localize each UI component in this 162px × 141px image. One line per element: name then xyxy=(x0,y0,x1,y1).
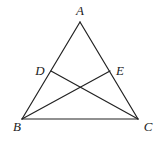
segment-be xyxy=(22,71,110,119)
triangle-diagram: ABCDE xyxy=(0,0,162,141)
point-label-e: E xyxy=(115,63,124,78)
point-labels: ABCDE xyxy=(13,3,153,134)
segment-ac xyxy=(80,22,138,119)
point-label-b: B xyxy=(13,119,21,134)
point-label-c: C xyxy=(144,119,153,134)
point-label-a: A xyxy=(75,3,84,18)
point-label-d: D xyxy=(34,63,45,78)
segment-cd xyxy=(51,71,138,119)
